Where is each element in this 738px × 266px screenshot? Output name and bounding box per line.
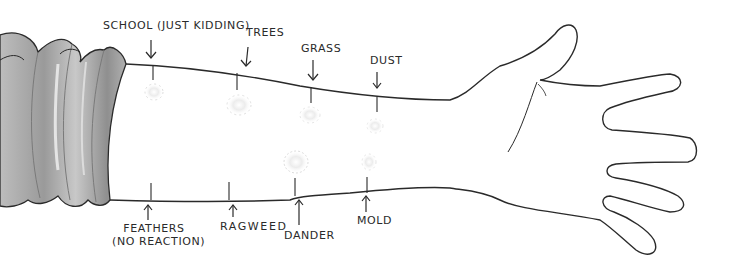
label-trees: TREES (246, 26, 284, 39)
label-mold: MOLD (357, 214, 392, 227)
allergy-arm-illustration: SCHOOL (JUST KIDDING) TREES GRASS DUST F… (0, 0, 738, 266)
arrow-down-icon (146, 40, 156, 58)
arrow-down-icon (373, 72, 381, 88)
sleeve (0, 33, 126, 207)
arrow-up-icon (362, 196, 370, 212)
arrow-down-icon (241, 47, 251, 66)
arrow-up-icon (295, 200, 303, 225)
label-feathers: FEATHERS (NO REACTION) (112, 222, 196, 248)
top-arrows (146, 40, 381, 88)
label-dander: DANDER (284, 229, 335, 242)
top-test-marks (153, 66, 377, 112)
skin-reactions (145, 84, 383, 173)
arrow-down-icon (308, 60, 318, 80)
label-ragweed: RAGWEED (220, 220, 288, 233)
thumb-crease (508, 82, 537, 152)
bottom-test-marks (151, 177, 367, 200)
label-dust: DUST (370, 54, 403, 67)
arm-outline (110, 25, 697, 254)
label-grass: GRASS (301, 42, 341, 55)
arrow-up-icon (144, 205, 152, 220)
label-feathers-subtext: (NO REACTION) (112, 235, 196, 248)
label-school: SCHOOL (JUST KIDDING) (103, 19, 250, 32)
label-feathers-text: FEATHERS (112, 222, 196, 235)
arrow-up-icon (229, 205, 237, 217)
